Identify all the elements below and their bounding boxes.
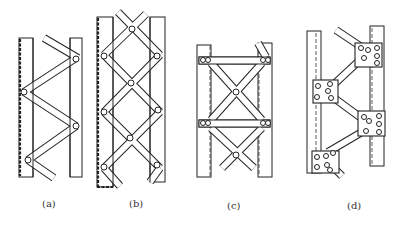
rivet-icon xyxy=(233,89,239,95)
panel-b-double-lacing xyxy=(97,12,165,187)
rivet-icon xyxy=(206,121,211,126)
rivet-icon xyxy=(266,58,271,63)
rivet-icon xyxy=(201,121,206,126)
rivet-icon xyxy=(154,162,160,168)
rivet-icon xyxy=(154,53,160,59)
rivet-icon xyxy=(266,121,271,126)
rivet-icon xyxy=(155,107,161,113)
rivet-icon xyxy=(101,164,107,170)
rivet-icon xyxy=(101,53,107,59)
panel-b-label: (b) xyxy=(129,198,143,209)
rivet-icon xyxy=(261,58,266,63)
rivet-icon xyxy=(261,121,266,126)
panel-c-label: (c) xyxy=(227,200,241,211)
rivet-icon xyxy=(127,135,133,141)
rivet-icon xyxy=(21,89,27,95)
panel-d-label: (d) xyxy=(347,200,361,211)
rivet-icon xyxy=(206,58,211,63)
panel-a-label: (a) xyxy=(42,198,56,209)
panel-d-gusset-plate-lacing xyxy=(307,26,385,176)
rivet-icon xyxy=(128,80,134,86)
panel-a-single-lacing xyxy=(19,38,82,178)
rivet-icon xyxy=(101,109,107,115)
rivet-icon xyxy=(73,123,79,129)
rivet-icon xyxy=(73,56,79,62)
rivet-icon xyxy=(25,157,31,163)
lacing-systems-diagram: (a) (b) (c) (d) xyxy=(0,0,398,225)
rivet-icon xyxy=(201,58,206,63)
rivet-icon xyxy=(129,26,135,32)
rivet-icon xyxy=(233,152,239,158)
panel-c-cross-bracing xyxy=(197,43,272,177)
